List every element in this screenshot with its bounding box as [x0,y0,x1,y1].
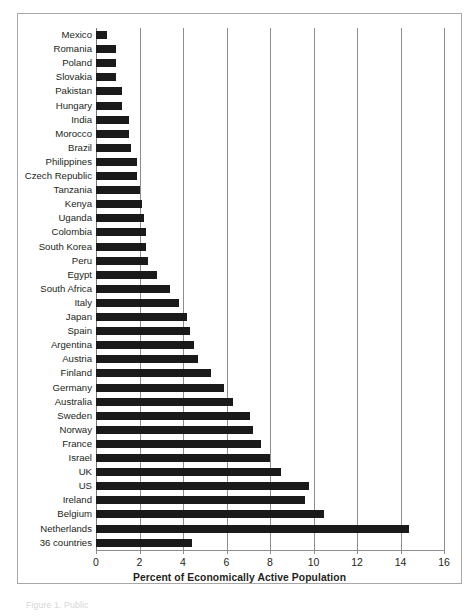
category-label: Australia [55,395,92,409]
bar [96,172,137,180]
bar [96,200,142,208]
bar [96,130,129,138]
category-label: Ireland [63,493,92,507]
category-label: Pakistan [55,84,92,98]
category-label: Belgium [57,507,92,521]
x-tick-label: 12 [351,556,363,568]
bar [96,327,190,335]
bar-row: Australia [96,395,444,409]
bar-row: UK [96,465,444,479]
bar-row: Philippines [96,155,444,169]
category-label: Philippines [46,155,92,169]
bar [96,525,409,533]
bar-row: Netherlands [96,522,444,536]
bar [96,144,131,152]
category-label: Colombia [51,225,92,239]
bar-row: Austria [96,352,444,366]
category-label: Kenya [65,197,92,211]
x-tick-16 [444,550,445,554]
bar-row: France [96,437,444,451]
bar [96,510,324,518]
category-label: Argentina [51,338,92,352]
category-label: Poland [62,56,92,70]
bar-row: Poland [96,56,444,70]
bar-row: Brazil [96,141,444,155]
bar [96,426,253,434]
bar [96,73,116,81]
category-label: Italy [74,296,92,310]
category-label: Spain [67,324,92,338]
bar-row: South Korea [96,240,444,254]
category-label: Israel [69,451,92,465]
x-tick-8 [270,550,271,554]
bar-row: US [96,479,444,493]
bar [96,31,107,39]
bar [96,384,224,392]
category-label: Finland [61,366,92,380]
x-tick-label: 16 [438,556,450,568]
bar [96,285,170,293]
bar [96,257,148,265]
category-label: Egypt [67,268,92,282]
bar [96,158,137,166]
category-label: Uganda [58,211,92,225]
chart-page: MexicoRomaniaPolandSlovakiaPakistanHunga… [0,0,476,616]
bar-row: Japan [96,310,444,324]
gridline-16 [444,28,445,550]
bar [96,341,194,349]
bar-row: Finland [96,366,444,380]
bar-row: Argentina [96,338,444,352]
bar [96,468,281,476]
bar-row: Tanzania [96,183,444,197]
category-label: Mexico [62,28,92,42]
x-tick-label: 0 [93,556,99,568]
bar-row: Slovakia [96,70,444,84]
bar-row: Norway [96,423,444,437]
category-label: Germany [53,381,92,395]
bar [96,355,198,363]
bar-row: Mexico [96,28,444,42]
x-axis-title: Percent of Economically Active Populatio… [18,572,461,583]
bar-row: Belgium [96,507,444,521]
bar-row: Italy [96,296,444,310]
bar-row: Egypt [96,268,444,282]
category-label: UK [79,465,92,479]
x-tick-14 [401,550,402,554]
bar-row: Pakistan [96,84,444,98]
bar-row: Uganda [96,211,444,225]
bar [96,496,305,504]
category-label: Hungary [56,99,92,113]
category-label: Austria [62,352,92,366]
x-tick-label: 4 [180,556,186,568]
bar [96,243,146,251]
bar [96,299,179,307]
bar-row: Peru [96,254,444,268]
category-label: Morocco [55,127,92,141]
category-label: Romania [54,42,92,56]
x-tick-label: 8 [267,556,273,568]
bar [96,539,192,547]
x-tick-2 [140,550,141,554]
category-label: US [79,479,92,493]
x-tick-12 [357,550,358,554]
category-label: Tanzania [54,183,92,197]
category-label: 36 countries [40,536,92,550]
bar [96,398,233,406]
bar-row: Spain [96,324,444,338]
bar [96,102,122,110]
bar-row: India [96,113,444,127]
bar [96,186,140,194]
x-tick-label: 2 [137,556,143,568]
bar-row: Sweden [96,409,444,423]
plot-area: MexicoRomaniaPolandSlovakiaPakistanHunga… [96,28,444,550]
bar [96,313,187,321]
category-label: Peru [72,254,92,268]
bar [96,412,250,420]
bar [96,271,157,279]
category-label: South Africa [40,282,92,296]
bar-row: Hungary [96,99,444,113]
figure-frame: MexicoRomaniaPolandSlovakiaPakistanHunga… [17,13,462,584]
bar-row: Ireland [96,493,444,507]
x-tick-label: 6 [224,556,230,568]
bar-row: 36 countries [96,536,444,550]
